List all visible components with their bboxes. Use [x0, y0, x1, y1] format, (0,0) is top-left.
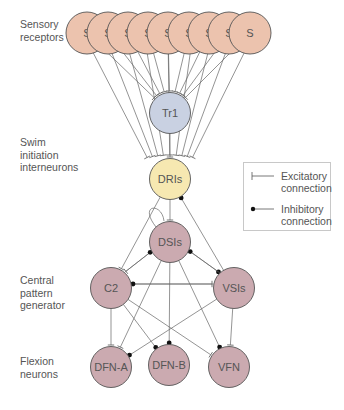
label-line: Swim [20, 136, 78, 149]
label-central-pattern-generator: Central pattern generator [20, 274, 65, 312]
label-line: Flexion [20, 355, 58, 368]
excitatory-connection [190, 51, 245, 158]
neuron-label: Tr1 [162, 107, 178, 119]
inhibitory-connection [125, 250, 153, 272]
excitatory-connection [102, 47, 157, 100]
neuron-label: C2 [104, 282, 118, 294]
label-line: Sensory [20, 18, 64, 31]
legend-text: connection [281, 182, 332, 194]
label-sensory-receptors: Sensory receptors [20, 18, 64, 43]
excitatory-connection [166, 53, 172, 91]
inhibitory-connection [131, 282, 214, 287]
label-line: generator [20, 299, 65, 312]
inhibitory-connection-icon [250, 203, 276, 215]
neuron-label: VSIs [222, 282, 246, 294]
excitatory-connection [172, 53, 184, 92]
neuron-label: DSIs [158, 236, 182, 248]
excitatory-connection [184, 52, 226, 157]
neuron-s9: S [229, 12, 271, 54]
label-line: pattern [20, 287, 65, 300]
neuron-dfn-b: DFN-B [149, 345, 190, 386]
neuron-tr1: Tr1 [150, 93, 191, 134]
inhibitory-connection [179, 261, 222, 350]
neuron-label: DFN-A [94, 361, 128, 373]
label-flexion-neurons: Flexion neurons [20, 355, 58, 380]
inhibitory-connection [188, 249, 220, 273]
excitatory-connection [153, 53, 167, 93]
excitatory-connection [108, 309, 114, 346]
legend-text: Excitatory [281, 170, 332, 182]
excitatory-connection [227, 308, 233, 345]
neuron-c2: C2 [91, 268, 132, 309]
neuron-dfn-a: DFN-A [91, 347, 132, 388]
label-swim-initiation: Swim initiation interneurons [20, 136, 78, 174]
label-line: initiation [20, 149, 78, 162]
excitatory-connection [167, 200, 173, 221]
neuron-vsis: VSIs [214, 268, 255, 309]
inhibitory-connection [123, 304, 158, 349]
legend-text: Inhibitory [281, 203, 332, 215]
neuron-label: S [246, 27, 253, 39]
legend: Excitatory connection Inhibitory connect… [243, 162, 331, 231]
inhibitory-connection [167, 262, 172, 345]
excitatory-connection [167, 134, 173, 158]
label-line: interneurons [20, 161, 78, 174]
neuron-dsis: DSIs [150, 222, 191, 263]
neuron-label: DFN-B [152, 359, 186, 371]
legend-text: connection [281, 215, 332, 227]
excitatory-connection [183, 47, 235, 99]
label-line: Central [20, 274, 65, 287]
label-line: receptors [20, 31, 64, 44]
neuron-dris: DRIs [150, 159, 191, 200]
excitatory-connection-icon [250, 170, 276, 182]
excitatory-connection [92, 51, 150, 159]
neuron-vfn: VFN [209, 347, 250, 388]
neuron-label: DRIs [158, 173, 183, 185]
neuron-label: VFN [218, 361, 240, 373]
label-line: neurons [20, 368, 58, 381]
